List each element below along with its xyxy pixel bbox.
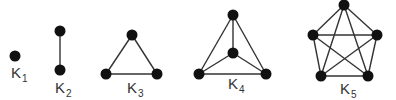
k4-vertex <box>228 48 239 59</box>
k3-vertex <box>152 69 163 80</box>
k4-edge <box>199 15 233 74</box>
k2-label: K2 <box>55 79 72 99</box>
k5-label-subscript: 5 <box>351 89 357 99</box>
k5-vertex <box>363 71 374 82</box>
k1-vertex <box>10 51 21 62</box>
graph-k1: K1 <box>10 51 29 85</box>
k2-vertex <box>55 26 66 37</box>
k1-label-subscript: 1 <box>22 73 28 84</box>
k4-vertex <box>194 69 205 80</box>
k5-edge <box>313 35 321 76</box>
k1-label: K1 <box>11 64 28 84</box>
k5-edge <box>321 35 377 76</box>
k4-label-base: K <box>228 75 238 92</box>
k4-label-subscript: 4 <box>239 84 245 95</box>
k4-edge <box>233 53 266 74</box>
k4-edge <box>233 15 266 74</box>
k3-edge <box>106 35 132 74</box>
k4-vertex <box>228 10 239 21</box>
k1-label-base: K <box>11 64 21 81</box>
k4-vertex <box>261 69 272 80</box>
k3-vertex <box>101 69 112 80</box>
k3-edge <box>132 35 157 74</box>
graph-k3: K3 <box>101 30 163 100</box>
k3-label-subscript: 3 <box>138 88 144 99</box>
k5-label: K5 <box>340 80 357 99</box>
graph-k4: K4 <box>194 10 272 96</box>
complete-graphs-diagram: K1 K2 K3 K4 K5 <box>0 0 396 99</box>
graph-k5: K5 <box>308 0 383 99</box>
k5-vertex <box>308 30 319 41</box>
k3-label-base: K <box>127 79 137 96</box>
k4-label: K4 <box>228 75 245 95</box>
k5-vertex <box>372 30 383 41</box>
k5-label-base: K <box>340 80 350 97</box>
k2-vertex <box>55 65 66 76</box>
k3-label: K3 <box>127 79 144 99</box>
graph-k2: K2 <box>55 26 73 100</box>
k4-edge <box>199 53 233 74</box>
k2-label-base: K <box>55 79 65 96</box>
k5-vertex <box>316 71 327 82</box>
k3-vertex <box>127 30 138 41</box>
k5-edge <box>313 35 368 76</box>
k2-label-subscript: 2 <box>66 88 72 99</box>
k5-vertex <box>339 0 350 11</box>
